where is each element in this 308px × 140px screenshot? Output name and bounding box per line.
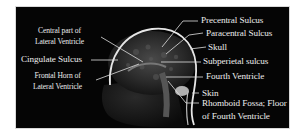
label-line: of Fourth Ventricle	[202, 112, 287, 121]
label-line: Central part of	[35, 27, 84, 35]
label-subperietal-sulcus: Subperietal sulcus	[203, 57, 268, 66]
label-rhomboid-fossa: Rhomboid Fossa; Floor of Fourth Ventricl…	[202, 99, 287, 121]
label-paracentral-sulcus: Paracentral Sulcus	[206, 29, 272, 38]
label-line: Rhomboid Fossa; Floor	[202, 99, 287, 108]
label-skull: Skull	[208, 43, 227, 52]
label-central-part-lateral-ventricle: Central part of Lateral Ventricle	[35, 27, 84, 45]
label-fourth-ventricle: Fourth Ventricle	[206, 72, 264, 81]
skin-outline	[187, 91, 189, 125]
label-line: Lateral Ventricle	[33, 83, 82, 91]
label-skin: Skin	[202, 89, 218, 98]
label-precentral-sulcus: Precentral Sulcus	[201, 16, 263, 25]
label-line: Frontal Horn of	[33, 72, 82, 80]
label-cingulate-sulcus: Cingulate Sulcus	[21, 55, 82, 64]
label-frontal-horn-lateral-ventricle: Frontal Horn of Lateral Ventricle	[33, 72, 82, 90]
mri-figure-panel: Central part of Lateral Ventricle Cingul…	[15, 6, 290, 129]
label-line: Lateral Ventricle	[35, 38, 84, 46]
